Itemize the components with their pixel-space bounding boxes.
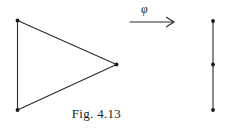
target-vertex-middle-dot — [211, 63, 215, 67]
target-vertex-bottom-dot — [211, 108, 215, 112]
figure-container: φ Fig. 4.13 — [0, 0, 231, 132]
source-triangle — [16, 19, 119, 112]
target-segment — [211, 19, 215, 112]
target-vertex-top-dot — [211, 19, 215, 23]
triangle-upper-edge — [18, 21, 117, 65]
figure-caption: Fig. 4.13 — [0, 106, 193, 122]
source-vertex-top-dot — [16, 19, 20, 23]
map-label-phi: φ — [141, 2, 148, 16]
triangle-lower-edge — [18, 65, 117, 111]
map-arrow — [130, 17, 174, 27]
source-vertex-right-dot — [115, 63, 119, 67]
